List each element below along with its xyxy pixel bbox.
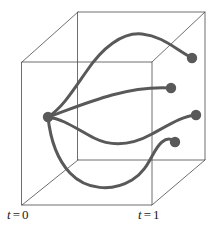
cube-trajectory-svg	[0, 0, 213, 228]
trajectory-curves	[48, 34, 196, 188]
cube-edge-top-right	[152, 12, 205, 62]
cube-edge-top-left	[22, 12, 78, 62]
trajectory-endpoint-dots	[166, 53, 201, 147]
endpoint-dot-3	[191, 110, 201, 120]
cube-edge-bottom-left	[22, 160, 78, 205]
label-t1-operator: =	[142, 207, 153, 222]
label-t0-operator: =	[11, 207, 22, 222]
endpoint-dot-2	[166, 83, 176, 93]
trajectory-path-1	[48, 34, 192, 117]
endpoint-dot-4	[170, 137, 180, 147]
label-t-equals-0: t=0	[7, 208, 28, 221]
cube-edge-bottom-right	[152, 160, 205, 205]
endpoint-dot-1	[187, 53, 197, 63]
label-t0-value: 0	[22, 207, 29, 222]
start-point-dot	[43, 112, 53, 122]
label-t-equals-1: t=1	[138, 208, 159, 221]
trajectory-path-4	[48, 117, 175, 188]
trajectory-path-2	[48, 88, 171, 117]
figure-container: t=0 t=1	[0, 0, 213, 228]
label-t1-value: 1	[153, 207, 160, 222]
